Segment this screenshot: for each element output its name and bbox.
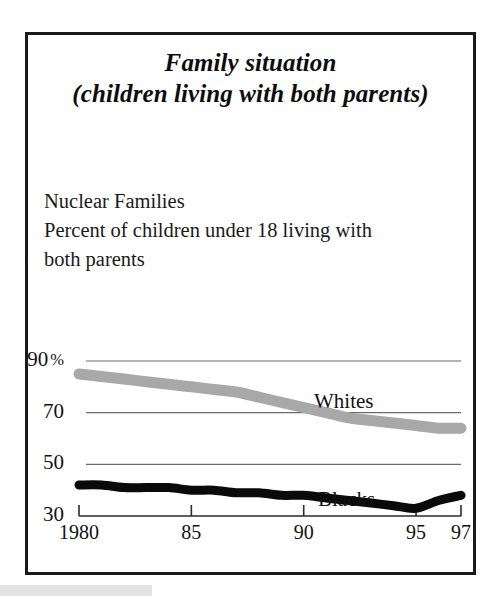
x-tick-label-85: 85 <box>156 521 226 544</box>
y-tick-label-50: 50 <box>43 450 64 475</box>
series-group <box>79 374 461 509</box>
series-line-whites <box>79 374 461 428</box>
chart-plot-area <box>28 35 473 572</box>
series-label-whites: Whites <box>314 389 373 414</box>
x-tick-label-1980: 1980 <box>44 521 114 544</box>
y-tick-label-70: 70 <box>43 399 64 424</box>
x-tick-label-97: 97 <box>426 521 496 544</box>
series-label-blacks: Blacks <box>318 487 375 512</box>
chart-svg <box>28 35 479 578</box>
y-tick-percent-sign: % <box>50 350 64 369</box>
bottom-decorative-bar <box>0 585 152 596</box>
figure-frame: Family situation (children living with b… <box>25 32 476 575</box>
y-tick-label-90: 90% <box>27 347 64 372</box>
series-line-blacks <box>79 485 461 509</box>
x-tick-label-90: 90 <box>269 521 339 544</box>
